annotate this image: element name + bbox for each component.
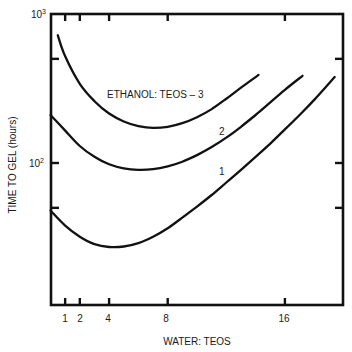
time-to-gel-chart: 103 102 1 2 4 8 16 WATER: TEOS TIME TO G… (0, 0, 352, 352)
axis-ticks (51, 14, 343, 305)
x-tick-label-4: 4 (105, 313, 111, 324)
x-tick-label-1: 1 (62, 313, 68, 324)
x-tick-label-16: 16 (278, 313, 290, 324)
x-tick-label-8: 8 (163, 313, 169, 324)
curve-series-3 (58, 35, 259, 128)
plot-frame (51, 14, 343, 305)
x-axis-title: WATER: TEOS (163, 336, 231, 347)
x-tick-label-2: 2 (77, 313, 83, 324)
curve-label-ethanol-teos-3: ETHANOL: TEOS – 3 (107, 89, 204, 100)
y-axis-title: TIME TO GEL (hours) (7, 116, 18, 213)
curve-label-1: 1 (219, 166, 225, 177)
y-tick-label-1000: 103 (31, 8, 46, 20)
curve-label-2: 2 (219, 126, 225, 137)
curves (51, 35, 335, 247)
y-tick-label-100: 102 (29, 157, 44, 169)
curve-series-1 (51, 77, 335, 247)
